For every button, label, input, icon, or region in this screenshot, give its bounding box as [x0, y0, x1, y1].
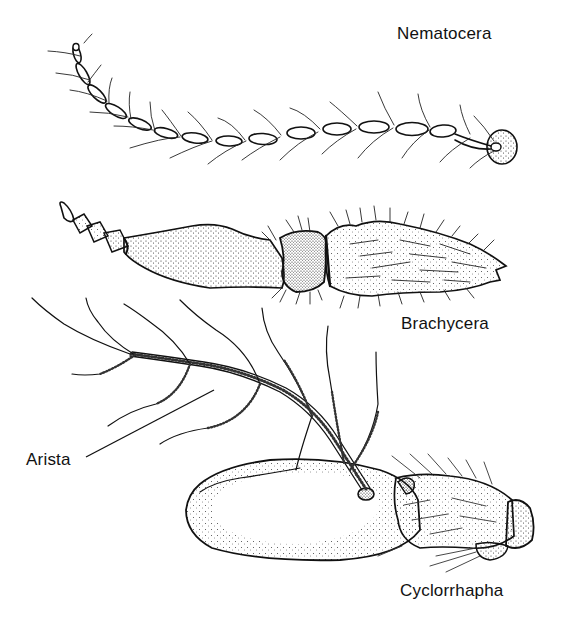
arista-leader-line: [86, 390, 214, 457]
label-brachycera: Brachycera: [401, 314, 489, 334]
antennae-figure: Nematocera Brachycera Cyclorrhapha Arist…: [0, 0, 564, 631]
brachycera-antenna: [60, 202, 506, 308]
nematocera-antenna: [48, 34, 517, 168]
cyclorrhapha-antenna: [32, 298, 534, 572]
label-cyclorrhapha: Cyclorrhapha: [400, 581, 504, 601]
label-nematocera: Nematocera: [397, 24, 492, 44]
label-arista: Arista: [26, 450, 71, 470]
